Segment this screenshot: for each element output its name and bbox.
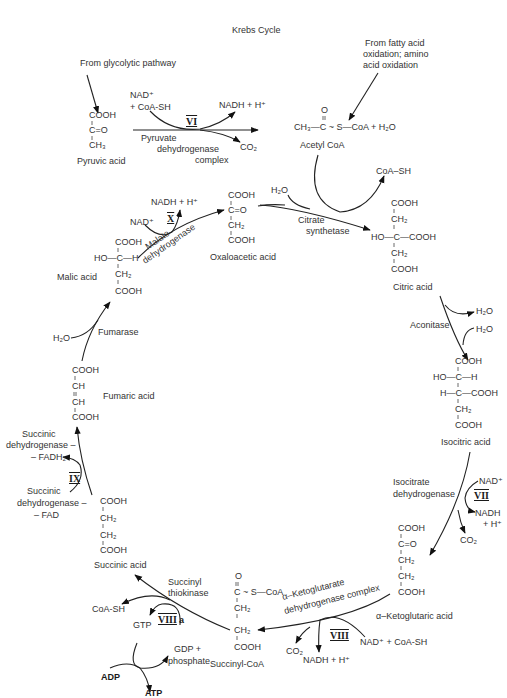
sdh-main-arrow: [77, 427, 92, 495]
malic-acid: COOH HO—C—H CH₂ COOH Malic acid: [57, 237, 142, 296]
cs-h2o-arrow: [288, 195, 310, 209]
svg-text:Succinic acid: Succinic acid: [94, 560, 147, 570]
pdh-label-1: Pyruvate: [141, 133, 177, 143]
svg-text:HO—C—COOH: HO—C—COOH: [371, 232, 436, 242]
idh-nadh: NADH: [475, 508, 501, 518]
svg-text:C=O: C=O: [228, 205, 247, 215]
stk-atp: ATP: [145, 688, 162, 698]
krebs-cycle-diagram: Krebs Cycle From glycolytic pathway From…: [0, 0, 507, 698]
sdh-fadh2-label-2: dehydrogenase –: [6, 440, 76, 450]
stk-gtp: GTP: [133, 620, 152, 630]
svg-text:Malic acid: Malic acid: [57, 272, 97, 282]
svg-text:COOH: COOH: [89, 110, 116, 120]
sdh-fad-label-3: – FAD: [34, 510, 60, 520]
stk-adp: ADP: [101, 672, 120, 682]
sdh-fadh2-label-3: – FADH₂: [31, 452, 67, 462]
stk-phosphate: phosphate: [168, 656, 210, 666]
succinic-acid: COOH CH₂ CH₂ COOH Succinic acid: [94, 496, 147, 570]
svg-text:Acetyl CoA: Acetyl CoA: [300, 140, 345, 150]
svg-text:C=O: C=O: [89, 125, 108, 135]
stk-gdp-arrow: [133, 643, 168, 668]
fumarase-label: Fumarase: [98, 327, 139, 337]
fumaric-acid: COOH CH CH COOH Fumaric acid: [72, 365, 155, 422]
svg-text:Isocitric acid: Isocitric acid: [441, 437, 491, 447]
svg-text:α–Ketoglutaric acid: α–Ketoglutaric acid: [376, 611, 453, 621]
svg-text:Citric acid: Citric acid: [393, 282, 433, 292]
sdh-fadh2-label-1: Succinic: [22, 429, 56, 439]
aconitase-h2o-in: [463, 328, 474, 345]
stk-label-2: thiokinase: [168, 588, 209, 598]
svg-text:O: O: [235, 571, 242, 581]
svg-text:CH₂: CH₂: [391, 214, 408, 224]
svg-text:COOH: COOH: [398, 523, 425, 533]
svg-text:CH₂: CH₂: [115, 269, 132, 279]
svg-text:CH₂: CH₂: [455, 404, 472, 414]
pdh-label-3: complex: [195, 155, 229, 165]
pdh-nad: NAD⁺: [130, 90, 154, 100]
aconitase-h2o-in-label: H₂O: [476, 324, 493, 334]
step-vi: VI: [186, 116, 197, 127]
diagram-title: Krebs Cycle: [232, 25, 281, 35]
svg-text:CH₃—C ~ S—CoA + H₂O: CH₃—C ~ S—CoA + H₂O: [294, 122, 396, 132]
fumarase-h2o-arrow: [71, 320, 98, 338]
aconitase-h2o-out: [445, 305, 474, 314]
source-fatty-acid-3: acid oxidation: [363, 60, 418, 70]
svg-text:COOH: COOH: [455, 420, 482, 430]
akg-co2-arrow: [296, 627, 310, 643]
svg-text:COOH: COOH: [234, 642, 261, 652]
stk-gdp: GDP +: [174, 644, 201, 654]
svg-text:COOH: COOH: [391, 198, 418, 208]
svg-text:COOH: COOH: [115, 237, 142, 247]
idh-co2: CO₂: [460, 535, 478, 545]
svg-text:Fumaric acid: Fumaric acid: [103, 391, 155, 401]
svg-text:CH: CH: [72, 397, 85, 407]
pdh-co2: CO₂: [240, 142, 258, 152]
svg-text:CH₂: CH₂: [234, 625, 251, 635]
fatty-acid-arrow: [349, 73, 378, 120]
succinyl-coa: O C ~ S—CoA CH₂ CH₂ COOH Succinyl-CoA: [210, 571, 283, 669]
svg-text:COOH: COOH: [100, 496, 127, 506]
step-ix: IX: [69, 473, 81, 484]
acetyl-coa: O CH₃—C ~ S—CoA + H₂O Acetyl CoA: [294, 105, 396, 150]
svg-text:CH₂: CH₂: [100, 530, 117, 540]
cs-coash-arrow: [314, 155, 384, 212]
source-fatty-acid-2: oxidation; amino: [363, 49, 429, 59]
svg-text:CH: CH: [72, 381, 85, 391]
svg-text:Succinyl-CoA: Succinyl-CoA: [210, 659, 264, 669]
sdh-fad-label-2: dehydrogenase –: [17, 498, 87, 508]
svg-text:COOH: COOH: [228, 190, 255, 200]
source-fatty-acid-1: From fatty acid: [365, 38, 425, 48]
akg-nad-coash: NAD⁺ + CoA-SH: [360, 637, 427, 647]
step-vii: VII: [474, 490, 489, 501]
step-viiia: VIII: [158, 614, 177, 625]
mdh-nad: NAD⁺: [130, 217, 154, 227]
svg-text:COOH: COOH: [398, 587, 425, 597]
oxaloacetic-acid: COOH C=O CH₂ COOH Oxaloacetic acid: [210, 190, 276, 262]
idh-label-1: Isocitrate: [393, 477, 430, 487]
svg-text:COOH: COOH: [228, 235, 255, 245]
svg-text:COOH: COOH: [115, 286, 142, 296]
pdh-nadh: NADH + H⁺: [219, 100, 266, 110]
aconitase-h2o-out-label: H₂O: [476, 306, 493, 316]
pyruvic-acid: COOH C=O CH₃ Pyruvic acid: [77, 110, 126, 166]
cs-h2o: H₂O: [271, 185, 288, 195]
sdh-fad-label-1: Succinic: [27, 486, 61, 496]
pdh-label-2: dehydrogenase: [157, 144, 219, 154]
cs-coash: CoA–SH: [376, 166, 411, 176]
svg-text:COOH: COOH: [72, 365, 99, 375]
svg-text:CH₃: CH₃: [89, 140, 106, 150]
svg-text:HO—C—H: HO—C—H: [94, 253, 139, 263]
svg-text:COOH: COOH: [100, 545, 127, 555]
glycolysis-arrow: [87, 75, 98, 113]
svg-text:CH₂: CH₂: [100, 513, 117, 523]
fumarase-h2o: H₂O: [53, 333, 70, 343]
svg-text:COOH: COOH: [455, 356, 482, 366]
svg-text:COOH: COOH: [391, 264, 418, 274]
svg-text:Pyruvic acid: Pyruvic acid: [77, 156, 126, 166]
idh-co2-arrow: [458, 510, 465, 533]
svg-text:COOH: COOH: [72, 412, 99, 422]
idh-nad: NAD⁺: [479, 476, 503, 486]
source-glycolysis: From glycolytic pathway: [80, 58, 177, 68]
svg-text:CH₂: CH₂: [228, 220, 245, 230]
svg-text:C=O: C=O: [398, 539, 417, 549]
